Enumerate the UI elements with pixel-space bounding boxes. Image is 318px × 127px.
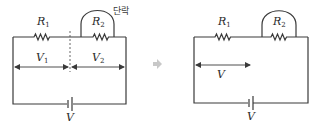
left-source-label: V xyxy=(66,111,75,124)
left-r1-label: R1 xyxy=(36,15,50,29)
transition-arrow-icon xyxy=(153,59,162,69)
right-r1-label: R1 xyxy=(217,15,231,29)
right-source-label: V xyxy=(247,110,256,123)
left-side-wires xyxy=(13,37,126,104)
left-v1-label: V1 xyxy=(36,51,48,65)
left-r2-label: R2 xyxy=(91,15,105,29)
short-circuit-label: 단락 xyxy=(113,5,129,16)
right-top-wire xyxy=(194,34,308,40)
left-circuit: R1 R2 단락 V1 V2 V xyxy=(13,5,129,124)
left-v2-label: V2 xyxy=(92,51,104,65)
right-side-wires xyxy=(194,37,308,103)
right-circuit: R1 R2 V V xyxy=(194,11,308,123)
right-battery-icon xyxy=(249,96,253,110)
right-v-label: V xyxy=(217,68,226,81)
left-top-wire xyxy=(13,34,126,40)
right-r2-label: R2 xyxy=(272,15,286,29)
left-battery-icon xyxy=(68,97,72,111)
circuit-diagram: R1 R2 단락 V1 V2 V R1 R2 V V xyxy=(0,0,318,127)
